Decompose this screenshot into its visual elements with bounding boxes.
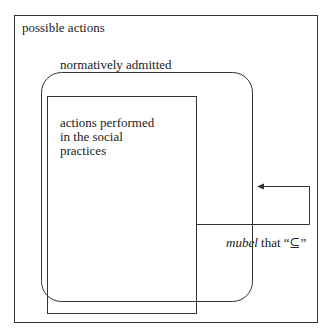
social-practices-label-line: in the social: [60, 130, 180, 144]
possible-actions-label: possible actions: [22, 21, 105, 35]
social-practices-label-line: actions performed: [60, 116, 180, 130]
social-practices-label-line: practices: [60, 144, 180, 158]
diagram-canvas: [0, 0, 331, 334]
normatively-admitted-label: normatively admitted: [60, 58, 172, 72]
normatively-admitted-box: [42, 73, 253, 302]
arrowhead-icon: [257, 184, 264, 190]
mubel-term: mubel: [226, 235, 258, 250]
mubel-arrow-label: mubel that “⊆”: [226, 236, 306, 250]
mubel-relation: that “⊆”: [258, 235, 306, 250]
social-practices-label: actions performed in the social practice…: [60, 116, 180, 158]
